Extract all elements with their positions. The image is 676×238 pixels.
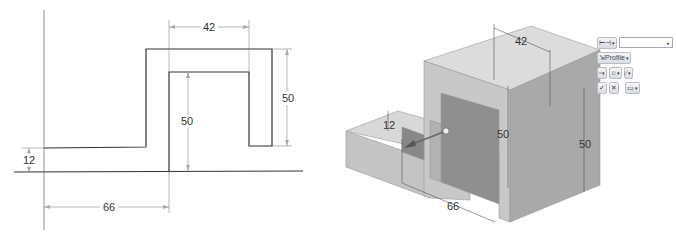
dim-12-label[interactable]: 12 bbox=[23, 154, 35, 166]
operation-button[interactable]: ⌂▾ bbox=[609, 67, 621, 79]
model-dim-50-block-label[interactable]: 50 bbox=[579, 138, 591, 150]
cancel-button[interactable]: ✕ bbox=[609, 82, 619, 94]
canvas: 66 42 50 50 12 42 50 50 12 66 bbox=[0, 0, 676, 238]
extrude-mini-toolbar: ⊢⊣▾ ▸ ⇲ Profile ▾ ▫▾ ⌂▾ ⁄▾ ✓ ✕ ▭▾ bbox=[597, 36, 673, 96]
baseline bbox=[14, 171, 303, 172]
distance-input[interactable]: ▸ bbox=[619, 37, 673, 48]
ok-button[interactable]: ✓ bbox=[597, 82, 607, 94]
chevron-down-icon: ▾ bbox=[617, 70, 620, 76]
chevron-down-icon: ▾ bbox=[626, 55, 629, 61]
chevron-right-icon[interactable]: ▸ bbox=[667, 40, 670, 46]
output-type-button[interactable]: ▫▾ bbox=[597, 67, 607, 79]
profile-outline[interactable] bbox=[44, 49, 272, 172]
chevron-down-icon: ▾ bbox=[602, 70, 605, 76]
direction-button[interactable]: ⁄▾ bbox=[624, 67, 633, 79]
dim-66-label[interactable]: 66 bbox=[103, 201, 115, 213]
model-dim-12-label[interactable]: 12 bbox=[383, 119, 395, 131]
chevron-down-icon: ▾ bbox=[635, 85, 638, 91]
opening-side-face bbox=[430, 120, 441, 182]
dim-50-inner-label[interactable]: 50 bbox=[181, 115, 193, 127]
join-icon: ⌂ bbox=[611, 69, 615, 76]
close-icon: ✕ bbox=[611, 84, 617, 92]
distance-type-button[interactable]: ⊢⊣▾ bbox=[597, 37, 617, 49]
dim-50-leg-label[interactable]: 50 bbox=[282, 92, 294, 104]
direction-icon: ⁄ bbox=[626, 69, 627, 76]
dim-42-label[interactable]: 42 bbox=[203, 21, 215, 33]
model-dim-42-label[interactable]: 42 bbox=[515, 35, 527, 47]
model-dim-66-label[interactable]: 66 bbox=[447, 200, 459, 212]
chevron-down-icon: ▾ bbox=[612, 40, 615, 46]
sketch-2d bbox=[14, 10, 303, 230]
options-icon: ▭ bbox=[627, 84, 634, 92]
dimension-arrows bbox=[27, 25, 289, 209]
chevron-down-icon: ▾ bbox=[628, 70, 631, 76]
more-options-button[interactable]: ▭▾ bbox=[625, 82, 640, 94]
solid-icon: ▫ bbox=[599, 69, 601, 76]
model-dim-50-label[interactable]: 50 bbox=[497, 128, 509, 140]
check-icon: ✓ bbox=[599, 84, 605, 92]
distance-icon: ⊢⊣ bbox=[599, 39, 611, 47]
profile-select-button[interactable]: ⇲ Profile ▾ bbox=[597, 52, 631, 64]
